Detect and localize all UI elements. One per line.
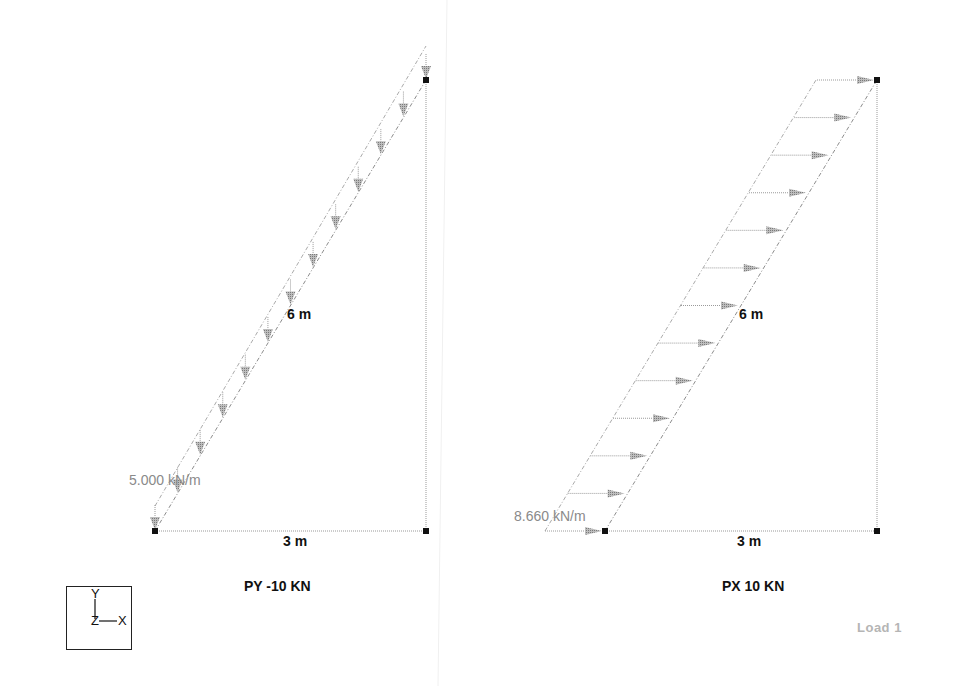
arrow-down-icon (376, 141, 386, 154)
arrow-down-icon (263, 329, 273, 342)
arrow-right-icon (608, 489, 625, 497)
arrow-right-icon (653, 414, 670, 422)
arrow-down-icon (218, 404, 228, 417)
distributed-load-arrows-right (545, 76, 874, 535)
structure-canvas[interactable] (0, 0, 962, 686)
axis-y-label: Y (91, 586, 100, 601)
arrow-right-icon (676, 377, 693, 385)
arrow-down-icon (353, 179, 363, 192)
arrow-right-icon (834, 114, 851, 122)
arrow-down-icon (195, 442, 205, 455)
dim-inclined-length: 6 m (739, 306, 763, 322)
node[interactable] (423, 528, 429, 534)
axis-triad: Y Z X (66, 586, 132, 650)
arrow-right-icon (585, 527, 602, 535)
distributed-load-arrows-down (150, 54, 431, 530)
panel-separator (438, 0, 447, 686)
load-case-title: PX 10 KN (722, 578, 784, 594)
panel-py (150, 46, 431, 534)
arrow-down-icon (286, 292, 296, 305)
node[interactable] (874, 77, 880, 83)
arrow-right-icon (812, 151, 829, 159)
arrow-right-icon (857, 76, 874, 84)
arrow-down-icon (240, 367, 250, 380)
node[interactable] (423, 77, 429, 83)
arrow-right-icon (721, 302, 738, 310)
load-case-title: PY -10 KN (244, 578, 311, 594)
arrow-right-icon (744, 264, 761, 272)
arrow-right-icon (698, 339, 715, 347)
node[interactable] (602, 528, 608, 534)
load-envelope (545, 80, 816, 531)
axis-z-label: Z (91, 613, 99, 628)
arrow-right-icon (630, 452, 647, 460)
load-case-tag: Load 1 (857, 620, 902, 635)
arrow-down-icon (331, 216, 341, 229)
arrow-down-icon (398, 104, 408, 117)
load-envelope (155, 46, 426, 506)
arrow-right-icon (789, 189, 806, 197)
node[interactable] (152, 528, 158, 534)
load-magnitude: 8.660 kN/m (514, 508, 586, 524)
node[interactable] (874, 528, 880, 534)
dim-horizontal-length: 3 m (737, 533, 761, 549)
arrow-right-icon (766, 226, 783, 234)
arrow-down-icon (308, 254, 318, 267)
panel-px (545, 76, 880, 535)
dim-horizontal-length: 3 m (283, 533, 307, 549)
load-magnitude: 5.000 kN/m (129, 472, 201, 488)
dim-inclined-length: 6 m (287, 306, 311, 322)
axis-x-label: X (118, 613, 127, 628)
